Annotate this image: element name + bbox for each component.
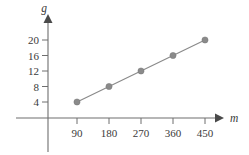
x-axis-arrow-icon	[215, 114, 224, 123]
y-tick-label: 8	[34, 81, 40, 93]
x-tick-label: 270	[133, 127, 150, 139]
x-tick-marks	[77, 118, 205, 124]
y-tick-label: 4	[34, 96, 40, 108]
y-tick-marks	[42, 40, 48, 102]
x-axis-title: m	[230, 112, 238, 124]
axis-group	[16, 14, 224, 152]
data-point	[74, 99, 80, 105]
x-tick-label: 90	[72, 127, 84, 139]
data-point	[106, 83, 112, 89]
y-tick-label: 12	[28, 65, 39, 77]
x-tick-label: 450	[197, 127, 214, 139]
y-tick-label: 16	[28, 50, 40, 62]
y-axis-arrow-icon	[44, 14, 53, 23]
x-tick-labels: 90 180 270 360 450	[72, 127, 214, 139]
y-tick-label: 20	[28, 34, 40, 46]
chart-container: 4 8 12 16 20 90 180 270 360 450 g m	[0, 0, 249, 155]
x-tick-label: 360	[165, 127, 182, 139]
y-axis-title: g	[41, 2, 47, 15]
y-tick-labels: 4 8 12 16 20	[28, 34, 40, 108]
data-markers	[74, 37, 208, 105]
data-point	[138, 68, 144, 74]
data-series-group	[74, 37, 208, 105]
line-chart: 4 8 12 16 20 90 180 270 360 450 g m	[0, 0, 249, 155]
data-point	[202, 37, 208, 43]
x-tick-label: 180	[101, 127, 118, 139]
data-point	[170, 52, 176, 58]
